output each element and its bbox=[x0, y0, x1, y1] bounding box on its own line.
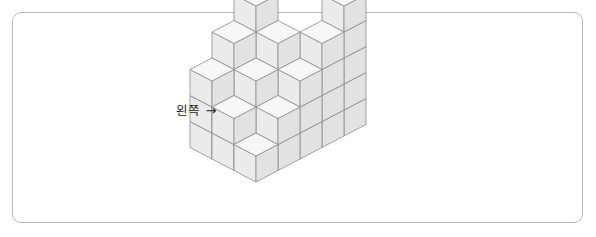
left-label-text: 왼쪽 bbox=[176, 103, 201, 118]
cube-figure bbox=[0, 0, 596, 237]
figure-page: 왼쪽→ bbox=[0, 0, 596, 237]
arrow-right-icon: → bbox=[206, 103, 217, 118]
isometric-cube-stack-svg bbox=[0, 0, 596, 237]
left-direction-label: 왼쪽→ bbox=[176, 104, 217, 118]
